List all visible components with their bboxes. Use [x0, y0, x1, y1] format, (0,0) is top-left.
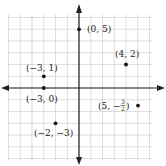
frac-numerator: 3: [121, 98, 125, 105]
grid-lines: [8, 15, 152, 161]
point-4-2: [124, 63, 128, 67]
point-neg3-1: [42, 74, 46, 78]
y-axis-up-arrow-icon: [76, 4, 82, 13]
point-0-5: [77, 27, 81, 31]
label-5-neg1.5-close: ): [126, 101, 130, 111]
x-axis-left-arrow-icon: [1, 85, 9, 91]
label-neg3-0: (−3, 0): [26, 94, 58, 104]
point-5-neg1.5: [136, 104, 140, 108]
point-neg2-neg3: [54, 121, 58, 125]
coordinate-plane: (0, 5) (4, 2) (−3, 1) (−3, 0) (5, − 3 2 …: [0, 0, 166, 166]
label-neg3-1: (−3, 1): [26, 63, 58, 73]
x-axis: [1, 85, 165, 91]
x-axis-right-arrow-icon: [157, 85, 165, 91]
y-axis-down-arrow-icon: [76, 157, 82, 165]
point-neg3-0: [42, 86, 46, 90]
label-0-5: (0, 5): [87, 24, 111, 34]
frac-denominator: 2: [121, 105, 125, 112]
label-5-neg1.5: (5, −: [98, 101, 121, 111]
label-neg2-neg3: (−2, −3): [34, 128, 73, 138]
label-4-2: (4, 2): [115, 49, 139, 59]
